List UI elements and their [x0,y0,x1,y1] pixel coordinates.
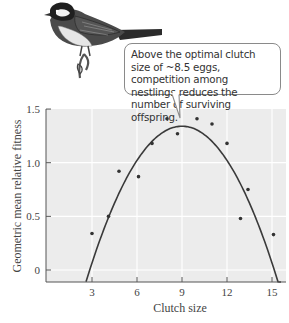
data-point [246,188,250,192]
y-axis-label: Geometric mean relative fitness [10,119,24,272]
y-tick-label: 0.5 [26,210,40,222]
plot-area [46,109,286,282]
x-tick-label: 9 [179,286,185,298]
y-tick-label: 0 [35,264,41,276]
callout-pointer [168,93,188,123]
data-point [137,175,141,179]
data-point [272,233,276,237]
data-point [90,232,94,236]
y-tick-label: 1.5 [26,103,40,115]
x-tick-label: 6 [134,286,140,298]
x-axis-label: Clutch size [153,301,207,315]
x-tick-label: 15 [267,286,279,298]
data-point [225,142,229,146]
callout-text: Above the optimal clutch size of ~8.5 eg… [131,48,274,124]
data-point [176,132,180,136]
data-point [150,142,154,146]
x-tick-label: 3 [89,286,95,298]
annotation-callout: Above the optimal clutch size of ~8.5 eg… [124,43,285,99]
data-point [239,217,243,221]
callout-box: Above the optimal clutch size of ~8.5 eg… [124,43,281,95]
x-tick-label: 12 [222,286,233,298]
data-point [107,215,111,219]
data-point [117,169,121,173]
y-tick-label: 1.0 [26,157,40,169]
